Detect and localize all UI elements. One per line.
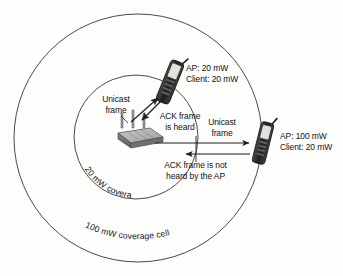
unicast-frame-far-label: Unicast frame: [200, 117, 244, 138]
ack-not-heard-line1: ACK frame is not: [143, 160, 248, 171]
unicast-far-line2: frame: [200, 128, 244, 139]
unicast-frame-near-label: Unicast frame: [92, 94, 140, 115]
far-client-ap-power: AP: 100 mW: [280, 131, 332, 142]
far-client-phone-icon: [252, 115, 277, 165]
near-client-ap-power: AP: 20 mW: [186, 63, 238, 74]
far-client-client-power: Client: 20 mW: [280, 142, 332, 153]
near-client-client-power: Client: 20 mW: [186, 74, 238, 85]
far-client-power-label: AP: 100 mW Client: 20 mW: [280, 131, 332, 152]
unicast-near-line1: Unicast: [92, 94, 140, 105]
near-client-power-label: AP: 20 mW Client: 20 mW: [186, 63, 238, 84]
unicast-far-line1: Unicast: [200, 117, 244, 128]
ack-not-heard-label: ACK frame is not heard by the AP: [143, 160, 248, 181]
outer-cell-label: 100 mW coverage cell: [84, 220, 170, 241]
ack-not-heard-line2: heard by the AP: [143, 171, 248, 182]
wireless-coverage-diagram: 100 mW coverage cell 20 mW coverage cell: [0, 0, 343, 276]
unicast-near-line2: frame: [92, 105, 140, 116]
